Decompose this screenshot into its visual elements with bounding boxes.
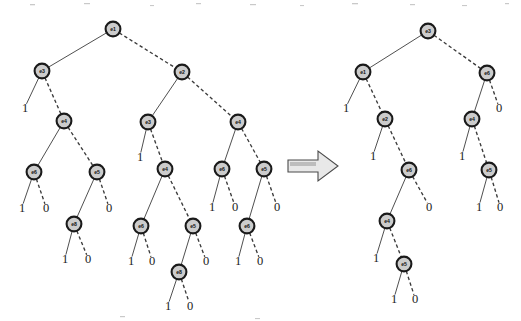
terminal-leaf-1: 1 [476, 200, 482, 214]
edge-solid [374, 126, 383, 152]
node-label: e6 [219, 166, 225, 172]
node-label: e4 [235, 119, 241, 125]
terminal-leaf-1: 1 [137, 150, 143, 164]
edge-solid [144, 176, 162, 219]
edge-dashed [366, 79, 382, 113]
edge-solid [249, 176, 262, 219]
node-label: e3 [39, 68, 45, 74]
terminal-leaf-1: 1 [391, 292, 397, 306]
terminal-leaf-1: 1 [370, 149, 376, 163]
leaf-label-layer: 111001001010010101011010110 [19, 101, 503, 313]
terminal-leaf-1: 1 [459, 149, 465, 163]
node-label: e6 [138, 223, 144, 229]
terminal-leaf-0: 0 [149, 254, 155, 268]
bdd-node: e6 [240, 219, 255, 234]
edge-dashed [474, 126, 486, 163]
edge-dashed [188, 77, 233, 117]
bdd-node: e2 [175, 65, 190, 80]
scan-speck [505, 3, 509, 4]
bdd-node: e5 [186, 219, 201, 234]
node-label: e4 [162, 166, 168, 172]
scan-artifacts [30, 3, 509, 319]
edge-solid [77, 179, 94, 217]
edge-dashed [119, 33, 175, 68]
terminal-leaf-0: 0 [85, 252, 91, 266]
scan-speck [250, 4, 256, 5]
terminal-leaf-0: 0 [412, 292, 418, 306]
edge-dashed [224, 176, 233, 203]
edge-dashed [99, 179, 107, 204]
terminal-leaf-0: 0 [497, 200, 503, 214]
edge-solid [23, 179, 31, 204]
node-label: e6 [484, 70, 490, 76]
bdd-node: e6 [480, 66, 495, 81]
edge-solid [480, 177, 487, 203]
node-label: e3 [145, 119, 151, 125]
scan-speck [30, 4, 35, 5]
bdd-node: e5 [397, 257, 412, 272]
edge-solid [224, 129, 235, 162]
bdd-node: e3 [421, 24, 436, 39]
node-label: e5 [486, 167, 492, 173]
edge-dashed [434, 35, 481, 68]
terminal-leaf-0: 0 [106, 201, 112, 215]
node-label: e5 [190, 223, 196, 229]
edge-solid [377, 228, 385, 254]
terminal-leaf-1: 1 [209, 200, 215, 214]
node-label: e8 [176, 269, 182, 275]
terminal-leaf-0: 0 [496, 101, 502, 115]
terminal-leaf-1: 1 [22, 101, 28, 115]
edge-solid [348, 79, 360, 104]
scan-speck [300, 5, 304, 6]
node-label: e6 [406, 167, 412, 173]
node-label: e1 [110, 26, 116, 32]
bdd-node: e6 [215, 162, 230, 177]
node-label: e5 [261, 166, 267, 172]
edge-dashed [491, 177, 499, 203]
edge-solid [48, 33, 106, 67]
scan-speck [410, 4, 415, 5]
edge-solid [474, 80, 484, 112]
terminal-leaf-1: 1 [128, 254, 134, 268]
edge-dashed [388, 126, 406, 164]
scan-speck [255, 318, 260, 319]
node-label: e8 [71, 221, 77, 227]
terminal-leaf-1: 1 [165, 299, 171, 313]
bdd-node: e6 [134, 219, 149, 234]
bdd-node: e5 [90, 165, 105, 180]
edge-solid [463, 126, 470, 152]
bdd-node: e1 [106, 22, 121, 37]
edge-dashed [266, 176, 275, 203]
node-label: e2 [382, 116, 388, 122]
edge-solid [213, 176, 220, 202]
edge-dashed [36, 179, 44, 204]
scan-speck [196, 3, 201, 4]
node-label: e2 [179, 69, 185, 75]
node-label: e3 [425, 28, 431, 34]
bdd-node: e6 [27, 165, 42, 180]
terminal-leaf-1: 1 [62, 252, 68, 266]
bdd-node: e8 [172, 265, 187, 280]
bdd-node: e3 [35, 64, 50, 79]
edge-dashed [413, 176, 428, 202]
bdd-reduction-figure: 111001001010010101011010110 e1e3e2e4e3e4… [0, 0, 521, 321]
terminal-leaf-0: 0 [232, 200, 238, 214]
terminal-leaf-1: 1 [19, 201, 25, 215]
terminal-leaf-1: 1 [343, 101, 349, 115]
arrow-highlight [290, 162, 316, 166]
edge-solid [152, 78, 178, 116]
terminal-leaf-0: 0 [257, 254, 263, 268]
bdd-node: e4 [231, 115, 246, 130]
bdd-node: e4 [465, 112, 480, 127]
terminal-leaf-1: 1 [235, 254, 241, 268]
terminal-leaf-0: 0 [203, 254, 209, 268]
scan-speck [462, 5, 467, 6]
edge-solid [369, 35, 421, 68]
node-label: e6 [31, 169, 37, 175]
edge-solid [181, 233, 191, 265]
edge-dashed [242, 128, 261, 162]
edge-dashed [45, 78, 61, 114]
edge-dashed [68, 127, 93, 166]
node-layer: e1e3e2e4e3e4e6e5e4e6e5e8e6e5e6e8e3e1e6e2… [27, 22, 497, 280]
edge-solid [38, 127, 61, 165]
